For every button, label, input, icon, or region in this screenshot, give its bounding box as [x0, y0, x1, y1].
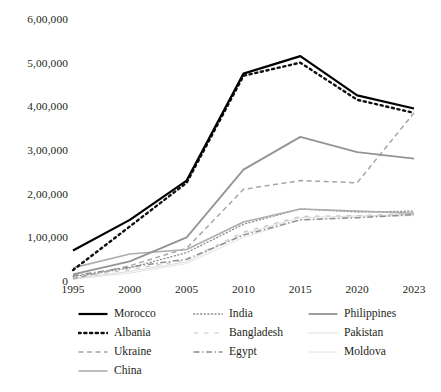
legend-label-egypt: Egypt	[229, 345, 257, 359]
line-chart-figure: 01,00,0002,00,0003,00,0004,00,0005,00,00…	[0, 0, 441, 392]
legend-item-pakistan[interactable]: Pakistan	[308, 324, 383, 341]
legend-item-philippines[interactable]: Philippines	[308, 305, 396, 322]
legend-swatch-china-icon	[78, 365, 108, 377]
legend-swatch-albania-icon	[78, 327, 108, 339]
series-line-ukraine	[73, 113, 414, 279]
y-axis-tick-100000: 1,00,000	[0, 231, 68, 243]
x-axis-tick-2010: 2010	[216, 283, 272, 296]
legend-swatch-bangladesh-icon	[193, 327, 223, 339]
legend-item-china[interactable]: China	[78, 362, 142, 379]
legend-item-albania[interactable]: Albania	[78, 324, 151, 341]
legend-swatch-pakistan-icon	[308, 327, 338, 339]
series-line-moldova	[73, 216, 414, 280]
legend-swatch-philippines-icon	[308, 308, 338, 320]
legend-label-india: India	[229, 307, 253, 321]
legend-swatch-moldova-icon	[308, 346, 338, 358]
y-axis-tick-400000: 4,00,000	[0, 100, 68, 112]
legend-item-bangladesh[interactable]: Bangladesh	[193, 324, 283, 341]
x-axis-tick-2005: 2005	[159, 283, 215, 296]
x-axis-tick-1995: 1995	[45, 283, 101, 296]
legend-swatch-morocco-icon	[78, 308, 108, 320]
y-axis-tick-200000: 2,00,000	[0, 188, 68, 200]
x-axis-tick-2015: 2015	[272, 283, 328, 296]
legend-label-philippines: Philippines	[344, 307, 396, 321]
x-axis-tick-2020: 2020	[329, 283, 385, 296]
legend-item-morocco[interactable]: Morocco	[78, 305, 156, 322]
x-axis-tick-2023: 2023	[386, 283, 441, 296]
legend-swatch-egypt-icon	[193, 346, 223, 358]
legend-item-egypt[interactable]: Egypt	[193, 343, 257, 360]
legend-label-morocco: Morocco	[114, 307, 156, 321]
legend-label-moldova: Moldova	[344, 345, 386, 359]
series-line-philippines	[73, 137, 414, 275]
legend-label-bangladesh: Bangladesh	[229, 326, 283, 340]
y-axis-tick-600000: 6,00,000	[0, 13, 68, 25]
legend-label-ukraine: Ukraine	[114, 345, 151, 359]
series-line-albania	[73, 63, 414, 270]
legend-item-ukraine[interactable]: Ukraine	[78, 343, 151, 360]
legend-label-albania: Albania	[114, 326, 151, 340]
legend-label-china: China	[114, 364, 142, 378]
plot-area: 01,00,0002,00,0003,00,0004,00,0005,00,00…	[0, 0, 441, 300]
legend-item-india[interactable]: India	[193, 305, 253, 322]
x-axis-tick-2000: 2000	[102, 283, 158, 296]
chart-legend: MoroccoIndiaPhilippinesAlbaniaBangladesh…	[0, 305, 441, 377]
legend-item-moldova[interactable]: Moldova	[308, 343, 386, 360]
legend-label-pakistan: Pakistan	[344, 326, 383, 340]
y-axis-tick-500000: 5,00,000	[0, 57, 68, 69]
series-line-china	[73, 209, 414, 268]
legend-swatch-india-icon	[193, 308, 223, 320]
legend-swatch-ukraine-icon	[78, 346, 108, 358]
y-axis-tick-300000: 3,00,000	[0, 144, 68, 156]
